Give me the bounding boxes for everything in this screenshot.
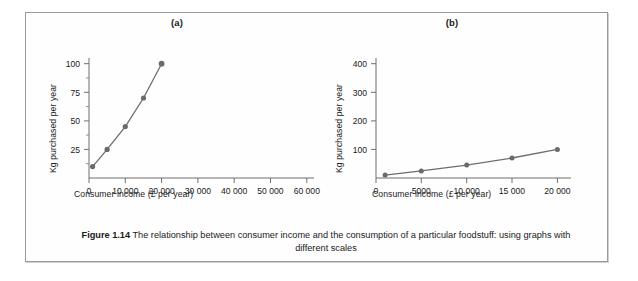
panel-a-ytick-25: 25: [70, 145, 80, 155]
panel-b-data-point: [383, 173, 388, 178]
panel-b-data-point: [510, 156, 515, 161]
panel-a-plot: 25 50 75 100 0 10 000 20 000 30 000 40 0…: [36, 13, 326, 203]
panel-b-ytick-400: 400: [353, 59, 368, 69]
panel-b-data-point: [555, 147, 560, 152]
panel-b-data-point: [464, 163, 469, 168]
panel-a-data-point: [141, 95, 146, 100]
panel-a-xtick-40000: 40 000: [221, 186, 248, 196]
panel-b-y-ticks: [371, 64, 376, 150]
panel-a-xtick-60000: 60 000: [294, 186, 321, 196]
panel-b-xtick-20000: 20 000: [544, 186, 571, 196]
panel-a-data-point: [105, 147, 110, 152]
panel-b-ytick-300: 300: [353, 88, 368, 98]
panel-b-plot: 100 200 300 400 0 5000 10 000 15 000 20 …: [326, 13, 606, 203]
panel-a-data-markers: [90, 61, 165, 169]
panel-a-xtick-30000: 30 000: [185, 186, 212, 196]
figure-caption: Figure 1.14 The relationship between con…: [66, 229, 586, 254]
panel-a-ytick-50: 50: [70, 116, 80, 126]
chart-panel-b: (b) Kg purchased per year Consumer incom…: [326, 13, 606, 203]
panel-a-ytick-100: 100: [66, 59, 81, 69]
panel-b-xtick-0: 0: [374, 186, 379, 196]
figure-caption-text: The relationship between consumer income…: [132, 230, 570, 253]
panel-b-xtick-10000: 10 000: [454, 186, 481, 196]
panel-a-data-point: [90, 164, 95, 169]
figure-frame: (a) Kg purchased per year Consumer incom…: [25, 12, 608, 262]
panel-a-xtick-10000: 10 000: [112, 186, 139, 196]
panel-a-xtick-0: 0: [87, 186, 92, 196]
panel-a-data-point: [123, 124, 128, 129]
panel-a-ytick-75: 75: [70, 88, 80, 98]
panel-b-data-point: [419, 168, 424, 173]
panel-b-ytick-200: 200: [353, 116, 368, 126]
panel-b-data-line: [385, 149, 557, 175]
panel-b-x-ticks: [376, 178, 557, 183]
panel-a-data-point: [159, 61, 165, 67]
panel-b-xtick-15000: 15 000: [499, 186, 526, 196]
panel-b-xtick-5000: 5000: [412, 186, 431, 196]
chart-panel-a: (a) Kg purchased per year Consumer incom…: [36, 13, 326, 203]
panel-a-xtick-20000: 20 000: [148, 186, 175, 196]
panel-b-data-markers: [383, 147, 560, 178]
figure-caption-label: Figure 1.14: [82, 230, 131, 240]
panel-b-ytick-100: 100: [353, 145, 368, 155]
panel-a-data-line: [93, 64, 162, 167]
panel-a-x-ticks: [89, 178, 307, 183]
panel-a-xtick-50000: 50 000: [257, 186, 284, 196]
